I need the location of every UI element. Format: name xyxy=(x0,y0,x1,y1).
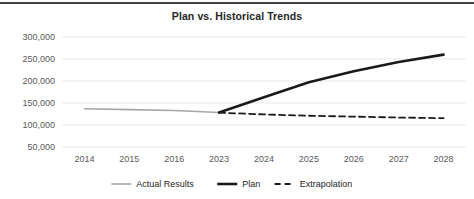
legend-label: Plan xyxy=(242,179,260,189)
x-axis-tick: 2016 xyxy=(164,154,184,164)
y-axis-tick: 300,000 xyxy=(22,32,55,42)
y-axis-tick: 50,000 xyxy=(27,142,55,152)
series-line xyxy=(84,109,219,113)
x-axis-tick: 2014 xyxy=(74,154,94,164)
x-axis-tick: 2023 xyxy=(209,154,229,164)
y-axis-tick-labels: 50,000100,000150,000200,000250,000300,00… xyxy=(22,32,55,152)
data-series-lines xyxy=(84,55,443,119)
series-line xyxy=(219,55,443,113)
chart-plot-area: 50,000100,000150,000200,000250,000300,00… xyxy=(0,0,474,199)
y-axis-tick: 200,000 xyxy=(22,76,55,86)
legend-label: Actual Results xyxy=(136,179,194,189)
x-axis-tick: 2026 xyxy=(344,154,364,164)
chart-container: Plan vs. Historical Trends 50,000100,000… xyxy=(0,0,474,199)
series-line xyxy=(219,113,443,119)
x-axis-tick: 2028 xyxy=(434,154,454,164)
y-axis-tick: 100,000 xyxy=(22,120,55,130)
y-axis-tick: 250,000 xyxy=(22,54,55,64)
x-axis-tick: 2025 xyxy=(299,154,319,164)
y-axis-tick: 150,000 xyxy=(22,98,55,108)
x-axis-tick: 2015 xyxy=(119,154,139,164)
x-axis-tick-labels: 201420152016202320242025202620272028 xyxy=(74,154,453,164)
legend-label: Extrapolation xyxy=(300,179,353,189)
x-axis-tick: 2024 xyxy=(254,154,274,164)
x-axis-tick: 2027 xyxy=(389,154,409,164)
chart-legend: Actual ResultsPlanExtrapolation xyxy=(111,179,352,189)
gridlines xyxy=(62,37,466,147)
